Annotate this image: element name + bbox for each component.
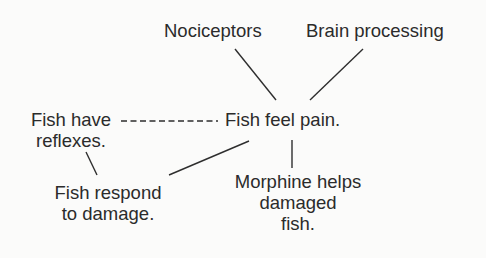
node-morphine-line-1: Morphine helps bbox=[225, 171, 371, 192]
node-feel-pain-line-1: Fish feel pain. bbox=[225, 109, 340, 130]
edge-feel-pain-to-respond bbox=[169, 141, 249, 175]
node-nociceptors: Nociceptors bbox=[164, 20, 262, 41]
node-morphine-line-2: damaged bbox=[225, 192, 371, 213]
edge-nociceptors-to-feel-pain bbox=[235, 49, 276, 100]
node-brain-processing: Brain processing bbox=[306, 20, 444, 41]
concept-map-diagram: Nociceptors Brain processing Fish have r… bbox=[0, 0, 486, 258]
node-morphine-line-3: fish. bbox=[225, 213, 371, 234]
node-fish-feel-pain: Fish feel pain. bbox=[225, 109, 340, 130]
node-respond-line-2: to damage. bbox=[44, 203, 172, 224]
node-respond-line-1: Fish respond bbox=[44, 182, 172, 203]
node-reflexes-line-1: Fish have bbox=[24, 109, 118, 130]
edge-reflexes-to-respond bbox=[86, 152, 97, 175]
edge-brain-to-feel-pain bbox=[310, 49, 363, 100]
node-morphine-helps-damaged-fish: Morphine helps damaged fish. bbox=[225, 171, 371, 234]
node-fish-have-reflexes: Fish have reflexes. bbox=[24, 109, 118, 151]
node-fish-respond-to-damage: Fish respond to damage. bbox=[44, 182, 172, 224]
node-nociceptors-line-1: Nociceptors bbox=[164, 20, 262, 41]
node-brain-line-1: Brain processing bbox=[306, 20, 444, 41]
node-reflexes-line-2: reflexes. bbox=[24, 130, 118, 151]
